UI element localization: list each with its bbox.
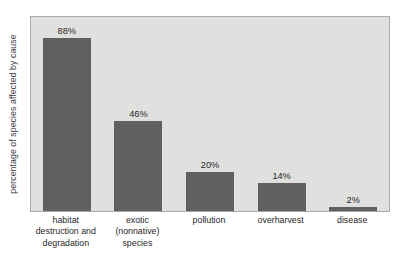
x-axis-label-0: habitatdestruction anddegradation [30,215,102,249]
x-axis-label-4: disease [316,215,388,226]
plot-area: 88%46%20%14%2% [30,16,390,212]
x-axis-label-line: degradation [30,238,102,249]
x-axis-category-labels: habitatdestruction anddegradationexotic(… [30,215,390,261]
bar-chart-figure: percentage of species affected by cause … [0,0,411,261]
bar-4 [329,207,377,211]
x-axis-label-line: (nonnative) [102,226,174,237]
y-axis-title: percentage of species affected by cause [8,34,18,193]
bar-3 [258,183,306,211]
bar-2 [186,172,234,211]
x-axis-label-line: pollution [173,215,245,226]
x-axis-label-1: exotic(nonnative)species [102,215,174,249]
x-axis-label-line: exotic [102,215,174,226]
bar-1 [114,121,162,211]
x-axis-label-line: species [102,238,174,249]
x-axis-label-line: overharvest [245,215,317,226]
bar-value-label-2: 20% [186,160,234,170]
bar-value-label-3: 14% [258,171,306,181]
x-axis-label-line: disease [316,215,388,226]
x-axis-label-line: destruction and [30,226,102,237]
bar-value-label-4: 2% [329,195,377,205]
x-axis-label-2: pollution [173,215,245,226]
x-axis-label-line: habitat [30,215,102,226]
bar-value-label-0: 88% [43,26,91,36]
bar-0 [43,38,91,211]
x-axis-label-3: overharvest [245,215,317,226]
y-axis-title-container: percentage of species affected by cause [0,16,26,212]
bar-value-label-1: 46% [114,109,162,119]
